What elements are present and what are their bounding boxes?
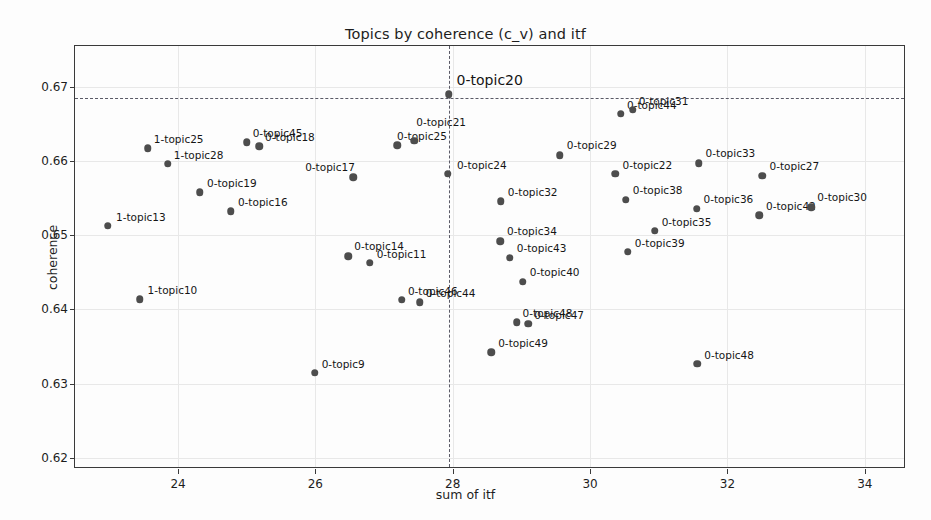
scatter-point[interactable] xyxy=(366,259,374,267)
y-tick-label: 0.66 xyxy=(41,154,75,168)
scatter-point[interactable] xyxy=(651,227,659,235)
gridline-horizontal xyxy=(75,309,904,310)
scatter-point[interactable] xyxy=(227,208,235,216)
scatter-point[interactable] xyxy=(759,172,767,180)
x-tick-mark xyxy=(727,469,728,474)
scatter-point-label: 1-topic13 xyxy=(116,211,166,223)
scatter-point-label: 0-topic18 xyxy=(265,131,315,143)
scatter-point-label: 0-topic21 xyxy=(416,116,466,128)
scatter-point[interactable] xyxy=(255,142,263,150)
scatter-point-label: 0-topic19 xyxy=(207,177,257,189)
chart-title: Topics by coherence (c_v) and itf xyxy=(0,26,931,42)
scatter-point[interactable] xyxy=(196,188,204,196)
gridline-vertical xyxy=(453,46,454,467)
scatter-point-label: 0-topic29 xyxy=(567,139,617,151)
scatter-point-label: 0-topic17 xyxy=(305,161,355,173)
scatter-point[interactable] xyxy=(624,248,632,256)
scatter-point[interactable] xyxy=(612,170,620,178)
scatter-point[interactable] xyxy=(393,142,401,150)
scatter-point[interactable] xyxy=(497,197,505,205)
gridline-horizontal xyxy=(75,235,904,236)
y-axis-label: coherence xyxy=(45,198,60,318)
scatter-point[interactable] xyxy=(629,106,637,114)
gridline-horizontal xyxy=(75,458,904,459)
gridline-horizontal xyxy=(75,384,904,385)
scatter-point-label: 0-topic38 xyxy=(633,184,683,196)
scatter-point-label: 0-topic32 xyxy=(508,186,558,198)
x-tick-mark xyxy=(590,469,591,474)
scatter-point[interactable] xyxy=(349,174,357,182)
scatter-point-label: 0-topic33 xyxy=(706,147,756,159)
scatter-point[interactable] xyxy=(807,203,815,211)
scatter-point[interactable] xyxy=(144,145,152,153)
gridline-horizontal xyxy=(75,87,904,88)
x-tick-mark xyxy=(865,469,866,474)
scatter-point-label: 0-topic31 xyxy=(639,95,689,107)
scatter-point-label: 0-topic25 xyxy=(397,130,447,142)
scatter-point-label: 0-topic43 xyxy=(517,242,567,254)
scatter-point-label: 0-topic46 xyxy=(408,285,458,297)
scatter-point[interactable] xyxy=(693,205,701,213)
scatter-point[interactable] xyxy=(411,137,419,145)
scatter-point[interactable] xyxy=(755,211,763,219)
scatter-point[interactable] xyxy=(243,139,251,147)
mean-itf-reference-line xyxy=(449,46,450,467)
y-tick-label: 0.67 xyxy=(41,80,75,94)
scatter-point[interactable] xyxy=(513,318,521,326)
y-tick-label: 0.62 xyxy=(41,451,75,465)
x-axis-label: sum of itf xyxy=(0,487,931,502)
scatter-point-label: 0-topic39 xyxy=(635,237,685,249)
scatter-point[interactable] xyxy=(622,196,630,204)
scatter-point-label: 0-topic14 xyxy=(354,240,404,252)
scatter-point-label: 1-topic10 xyxy=(148,284,198,296)
scatter-point-label: 0-topic11 xyxy=(377,248,427,260)
scatter-point[interactable] xyxy=(487,349,495,357)
scatter-point-label: 0-topic48 xyxy=(704,349,754,361)
gridline-horizontal xyxy=(75,161,904,162)
scatter-point-label: 0-topic16 xyxy=(238,196,288,208)
scatter-point[interactable] xyxy=(136,295,144,303)
scatter-point[interactable] xyxy=(695,160,703,168)
scatter-point[interactable] xyxy=(519,278,527,286)
chart-figure: Topics by coherence (c_v) and itf 1-topi… xyxy=(0,0,931,520)
max-coherence-reference-line xyxy=(75,98,904,99)
scatter-point[interactable] xyxy=(444,170,452,178)
scatter-point[interactable] xyxy=(525,320,533,328)
scatter-point-label: 0-topic30 xyxy=(817,191,867,203)
gridline-vertical xyxy=(315,46,316,467)
x-tick-mark xyxy=(178,469,179,474)
plot-area: 1-topic131-topic101-topic251-topic280-to… xyxy=(74,45,905,468)
scatter-point-label: 0-topic40 xyxy=(530,266,580,278)
scatter-point[interactable] xyxy=(104,222,112,230)
scatter-point-label: 0-topic35 xyxy=(662,216,712,228)
scatter-point-label: 0-topic9 xyxy=(322,358,365,370)
scatter-point-label: 1-topic28 xyxy=(174,149,224,161)
gridline-vertical xyxy=(178,46,179,467)
scatter-point-label: 0-topic44 xyxy=(426,287,476,299)
scatter-point[interactable] xyxy=(617,110,625,118)
x-tick-mark xyxy=(315,469,316,474)
scatter-point-label: 0-topic45 xyxy=(253,127,303,139)
x-tick-mark xyxy=(453,469,454,474)
scatter-point[interactable] xyxy=(506,254,514,262)
scatter-point[interactable] xyxy=(311,369,319,377)
scatter-point[interactable] xyxy=(445,90,453,98)
y-tick-label: 0.63 xyxy=(41,377,75,391)
scatter-point[interactable] xyxy=(416,298,424,306)
gridline-vertical xyxy=(865,46,866,467)
scatter-point-label: 0-topic49 xyxy=(498,337,548,349)
gridline-vertical xyxy=(590,46,591,467)
scatter-point[interactable] xyxy=(693,360,701,368)
gridline-vertical xyxy=(727,46,728,467)
scatter-point[interactable] xyxy=(164,160,172,168)
scatter-point[interactable] xyxy=(398,296,406,304)
scatter-point[interactable] xyxy=(556,151,564,159)
scatter-point[interactable] xyxy=(345,252,353,260)
scatter-point[interactable] xyxy=(496,237,504,245)
